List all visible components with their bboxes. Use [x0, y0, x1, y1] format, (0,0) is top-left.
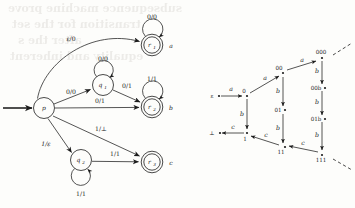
transition-p-r3: 1/⊥ — [53, 116, 140, 156]
lattice-edge-eps-0: a — [221, 85, 242, 96]
state-label: r — [148, 41, 152, 48]
lattice-node-000[interactable]: 000 — [316, 49, 327, 59]
state-label: r — [148, 103, 152, 110]
edge-label: a — [263, 74, 267, 81]
state-output-r1: a — [169, 42, 173, 49]
state-sublabel: 1 — [153, 45, 156, 50]
selfloop-q2: 1/1 — [71, 169, 90, 197]
state-r1[interactable]: r 1 — [141, 34, 163, 56]
lattice-edge-01b-111: b — [315, 122, 322, 150]
transition-label: 1/⊥ — [95, 125, 107, 132]
selfloop-r2: 1/1 — [143, 75, 163, 99]
edge-label: b — [240, 110, 244, 117]
transition-label: 0/0 — [98, 55, 108, 62]
lattice-edge-00-01: b — [276, 77, 283, 106]
state-sublabel: 1 — [104, 85, 107, 90]
continuation-dash-down-right — [333, 159, 352, 170]
state-sublabel: 3 — [153, 162, 156, 167]
transition-label: 1/1 — [147, 75, 157, 82]
transition-label: ε/0 — [66, 35, 75, 42]
edge-label: c — [231, 123, 235, 130]
transition-p-q2: 1/ε — [41, 119, 71, 153]
transition-q2-r3: 1/1 — [92, 150, 139, 162]
edge-label: b — [315, 67, 319, 74]
state-r2[interactable]: r 2 — [141, 96, 163, 118]
transition-label: 0/0 — [66, 88, 76, 95]
state-q1[interactable]: q 1 — [93, 75, 114, 96]
node-label: ⊥ — [209, 130, 214, 136]
lattice-node-01[interactable]: 01 — [274, 107, 286, 113]
node-label: 111 — [316, 157, 327, 163]
state-label: q — [99, 81, 103, 89]
state-label: r — [148, 158, 152, 165]
figure-page: subsequence machine prove transition for… — [0, 0, 355, 208]
node-label: 0 — [242, 88, 246, 94]
node-label: 1 — [243, 136, 247, 142]
edge-label: b — [315, 98, 319, 105]
state-output-r3: c — [169, 159, 173, 166]
edge-label: a — [300, 56, 304, 63]
edge-label: b — [276, 87, 280, 94]
node-label: 01 — [274, 107, 281, 113]
lattice-edge-01-11: b — [276, 114, 283, 143]
transition-label: 0/1 — [122, 82, 132, 89]
selfloop-r1: 0/0 — [143, 13, 163, 37]
lattice-node-eps[interactable]: ε — [211, 93, 221, 99]
lattice-node-bot[interactable]: ⊥ — [209, 130, 221, 136]
node-label: 00 — [275, 65, 283, 71]
lattice-node-01b[interactable]: 01b — [311, 116, 326, 122]
state-label: p — [42, 104, 46, 112]
transition-label: 0/1 — [95, 97, 105, 104]
edge-label: c — [264, 131, 268, 138]
edge-label: b — [315, 131, 319, 138]
state-r3[interactable]: r 3 — [141, 151, 163, 173]
lattice-node-00b[interactable]: 00b — [311, 85, 326, 91]
lattice-edge-0-1: b — [240, 99, 247, 129]
lattice-node-00[interactable]: 00 — [275, 65, 284, 75]
transition-label: 1/1 — [76, 190, 86, 197]
transition-label: 0/0 — [147, 13, 157, 20]
continuation-dash-up-right — [333, 43, 352, 55]
lattice-edge-0-00: a — [250, 74, 279, 93]
node-label: 00b — [311, 85, 322, 91]
node-label: ε — [211, 93, 214, 99]
transducer-figure: p q 1 0/0 q 2 1/1 — [3, 13, 173, 197]
node-label: 01b — [311, 116, 322, 122]
lattice-edge-00-000: a — [287, 56, 316, 70]
state-sublabel: 2 — [81, 160, 85, 165]
state-sublabel: 2 — [152, 107, 156, 112]
lattice-node-111[interactable]: 111 — [316, 154, 327, 163]
lattice-edge-1-bot: c — [222, 123, 244, 134]
lattice-edge-11-1: c — [251, 131, 279, 145]
edge-label: c — [301, 139, 305, 146]
transition-label: 1/1 — [110, 150, 120, 157]
lattice-node-0[interactable]: 0 — [242, 88, 248, 98]
lattice-figure: a c b a a b — [209, 43, 352, 170]
lattice-edge-111-11: c — [289, 139, 318, 152]
transition-label: 1/ε — [41, 140, 51, 147]
figures-canvas: p q 1 0/0 q 2 1/1 — [0, 0, 355, 208]
edge-label: a — [229, 85, 233, 92]
node-label: 000 — [316, 49, 327, 55]
state-p[interactable]: p — [34, 98, 55, 119]
state-label: q — [77, 156, 81, 164]
transition-q1-r2: 0/1 — [113, 82, 140, 102]
lattice-edge-000-00b: b — [315, 61, 322, 84]
edge-label: b — [276, 124, 280, 131]
transition-p-q1: 0/0 — [54, 88, 91, 104]
lattice-edge-00b-01b: b — [315, 91, 322, 115]
node-label: 11 — [277, 149, 284, 155]
state-output-r2: b — [169, 104, 173, 111]
lattice-node-11[interactable]: 11 — [277, 146, 286, 155]
state-q2[interactable]: q 2 — [71, 150, 92, 171]
